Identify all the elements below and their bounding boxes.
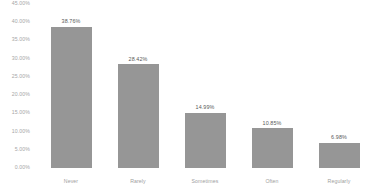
y-axis-tick-label: 45.00%	[12, 1, 30, 6]
y-axis-tick-label: 10.00%	[12, 129, 30, 134]
y-axis-tick-label: 40.00%	[12, 20, 30, 25]
bar-value-label: 14.99%	[196, 105, 215, 110]
x-axis-category-label: Never	[38, 179, 104, 184]
bar-value-label: 6.98%	[331, 135, 347, 140]
plot-area: 38.76%Never28.42%Rarely14.99%Sometimes10…	[34, 0, 372, 192]
y-axis-tick-label: 35.00%	[12, 38, 30, 43]
bar-value-label: 28.42%	[129, 57, 148, 62]
bar-value-label: 10.85%	[263, 121, 282, 126]
bar-group[interactable]: 14.99%	[172, 0, 238, 168]
bar-rect[interactable]	[185, 113, 226, 168]
y-axis-tick-label: 0.00%	[15, 165, 30, 170]
bar-group[interactable]: 38.76%	[38, 0, 104, 168]
bar-rect[interactable]	[319, 143, 360, 168]
bar-chart: 45.00%40.00%35.00%30.00%25.00%20.00%15.0…	[0, 0, 372, 192]
x-axis-category-label: Rarely	[105, 179, 171, 184]
y-axis-tick-label: 30.00%	[12, 56, 30, 61]
x-axis-category-label: Often	[239, 179, 305, 184]
bar-group[interactable]: 10.85%	[239, 0, 305, 168]
x-axis-category-label: Sometimes	[172, 179, 238, 184]
y-axis-tick-label: 20.00%	[12, 93, 30, 98]
y-axis: 45.00%40.00%35.00%30.00%25.00%20.00%15.0…	[0, 0, 34, 192]
bar-rect[interactable]	[118, 64, 159, 168]
bar-group[interactable]: 28.42%	[105, 0, 171, 168]
x-axis-category-label: Regularly	[306, 179, 372, 184]
y-axis-tick-label: 5.00%	[15, 147, 30, 152]
y-axis-tick-label: 15.00%	[12, 111, 30, 116]
bar-group[interactable]: 6.98%	[306, 0, 372, 168]
y-axis-tick-label: 25.00%	[12, 74, 30, 79]
bar-rect[interactable]	[252, 128, 293, 168]
bar-value-label: 38.76%	[62, 19, 81, 24]
bar-rect[interactable]	[51, 27, 92, 168]
